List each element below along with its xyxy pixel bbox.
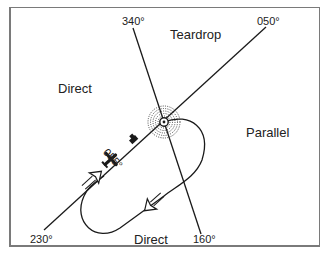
inbound-arrow-icon xyxy=(79,166,106,192)
radial-050-230-line xyxy=(44,27,266,230)
sector-teardrop-label: Teardrop xyxy=(170,27,221,42)
sector-direct-bottom-label: Direct xyxy=(134,232,168,247)
radial-340-label: 340° xyxy=(122,15,145,27)
radial-160-label: 160° xyxy=(193,233,216,245)
radial-230-label: 230° xyxy=(30,233,53,245)
outbound-arrow-icon xyxy=(140,189,167,215)
radial-050-label: 050° xyxy=(257,15,280,27)
radial-340-160-line xyxy=(133,28,201,234)
heading-marker-icon xyxy=(127,133,138,144)
sector-parallel-label: Parallel xyxy=(246,125,289,140)
sector-direct-left-label: Direct xyxy=(58,81,92,96)
